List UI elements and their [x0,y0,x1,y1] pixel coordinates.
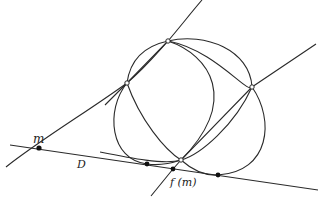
point-d-right [216,173,221,178]
line-through-fm [151,44,316,196]
line-D [10,145,318,190]
label-D: D [76,158,86,171]
label-fm: f (m) [169,176,197,189]
chord-left-top [105,41,168,105]
conic-upper-arc [127,39,252,87]
point-right [250,85,254,89]
point-m [36,145,41,150]
label-m: m [33,132,44,146]
point-bottom [179,158,183,162]
point-d-left [145,162,150,167]
point-top [166,39,170,43]
conic-top-bottom [168,41,252,88]
point-left [125,81,129,85]
conic-inner-right [168,41,214,160]
geometry-diagram: m D f (m) [0,0,320,202]
conic-left-bottom [127,83,181,160]
point-fm [171,167,176,172]
conic-right-lobe [181,87,265,175]
